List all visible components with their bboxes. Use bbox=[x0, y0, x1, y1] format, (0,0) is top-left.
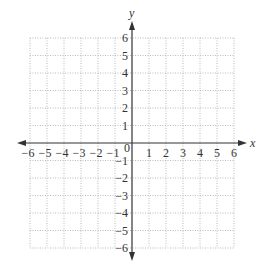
y-tick-label: −3 bbox=[115, 189, 128, 203]
x-tick-labels: −6−5−4−3−2−10123456 bbox=[22, 141, 237, 160]
axes: x y bbox=[17, 6, 256, 261]
x-tick-label: −6 bbox=[22, 146, 35, 160]
x-tick-label: −2 bbox=[90, 146, 103, 160]
y-tick-label: 1 bbox=[122, 119, 128, 133]
y-tick-label: 4 bbox=[122, 66, 128, 80]
x-tick-label: 6 bbox=[231, 146, 237, 160]
x-tick-label: −3 bbox=[73, 146, 86, 160]
y-tick-label: 5 bbox=[122, 49, 128, 63]
x-axis-label: x bbox=[249, 136, 256, 150]
y-axis-down-arrow-icon bbox=[129, 252, 135, 261]
x-tick-label: −4 bbox=[56, 146, 69, 160]
x-tick-label: 1 bbox=[146, 146, 152, 160]
coordinate-plane: x y −6−5−4−3−2−10123456 −6−5−4−3−2−11234… bbox=[0, 0, 265, 272]
y-tick-label: −4 bbox=[115, 206, 128, 220]
y-axis-label: y bbox=[128, 6, 135, 20]
x-tick-label: 4 bbox=[197, 146, 203, 160]
y-tick-label: −1 bbox=[115, 154, 128, 168]
y-tick-label: −6 bbox=[115, 241, 128, 255]
x-tick-label: 2 bbox=[163, 146, 169, 160]
x-tick-label: −5 bbox=[39, 146, 52, 160]
y-tick-label: −2 bbox=[115, 171, 128, 185]
x-tick-label: 5 bbox=[214, 146, 220, 160]
y-tick-label: 6 bbox=[122, 31, 128, 45]
y-tick-label: 2 bbox=[122, 101, 128, 115]
y-tick-label: 3 bbox=[122, 84, 128, 98]
y-tick-label: −5 bbox=[115, 224, 128, 238]
y-axis-up-arrow-icon bbox=[129, 21, 135, 30]
x-axis-right-arrow-icon bbox=[238, 140, 247, 146]
x-tick-label: 3 bbox=[180, 146, 186, 160]
